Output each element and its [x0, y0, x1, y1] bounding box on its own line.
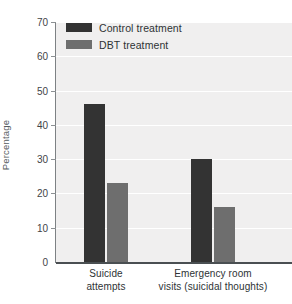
legend-swatch [66, 40, 92, 49]
y-tick-mark [51, 159, 56, 160]
x-category-label: Emergency roomvisits (suicidal thoughts) [138, 268, 288, 293]
y-tick-label: 60 [22, 51, 48, 62]
chart-legend: Control treatmentDBT treatment [66, 21, 182, 51]
legend-swatch [66, 23, 92, 32]
x-axis-category-labels: SuicideattemptsEmergency roomvisits (sui… [56, 268, 292, 304]
legend-label: DBT treatment [99, 39, 168, 51]
x-axis-baseline [56, 262, 292, 264]
gridline [56, 91, 292, 92]
bar [191, 159, 212, 262]
y-tick-label: 30 [22, 154, 48, 165]
y-tick-label: 40 [22, 119, 48, 130]
y-tick-mark [51, 125, 56, 126]
plot-area [56, 22, 292, 262]
bar [84, 104, 105, 262]
y-tick-label: 70 [22, 17, 48, 28]
y-axis-title: Percentage [0, 100, 11, 190]
gridline [56, 56, 292, 57]
y-tick-label: 0 [22, 257, 48, 268]
y-tick-mark [51, 91, 56, 92]
bar-chart: Percentage 706050403020100 Control treat… [0, 0, 292, 304]
y-tick-mark [51, 193, 56, 194]
y-tick-label: 10 [22, 222, 48, 233]
legend-item: Control treatment [66, 21, 182, 34]
y-tick-label: 20 [22, 188, 48, 199]
y-tick-label: 50 [22, 85, 48, 96]
x-category-label-line: visits (suicidal thoughts) [138, 281, 288, 294]
y-tick-mark [51, 56, 56, 57]
legend-item: DBT treatment [66, 38, 182, 51]
bar [107, 183, 128, 262]
legend-label: Control treatment [99, 22, 182, 34]
bar [214, 207, 235, 262]
y-tick-mark [51, 228, 56, 229]
x-category-label-line: Emergency room [138, 268, 288, 281]
y-axis-tick-labels: 706050403020100 [22, 0, 48, 304]
y-tick-mark [51, 22, 56, 23]
